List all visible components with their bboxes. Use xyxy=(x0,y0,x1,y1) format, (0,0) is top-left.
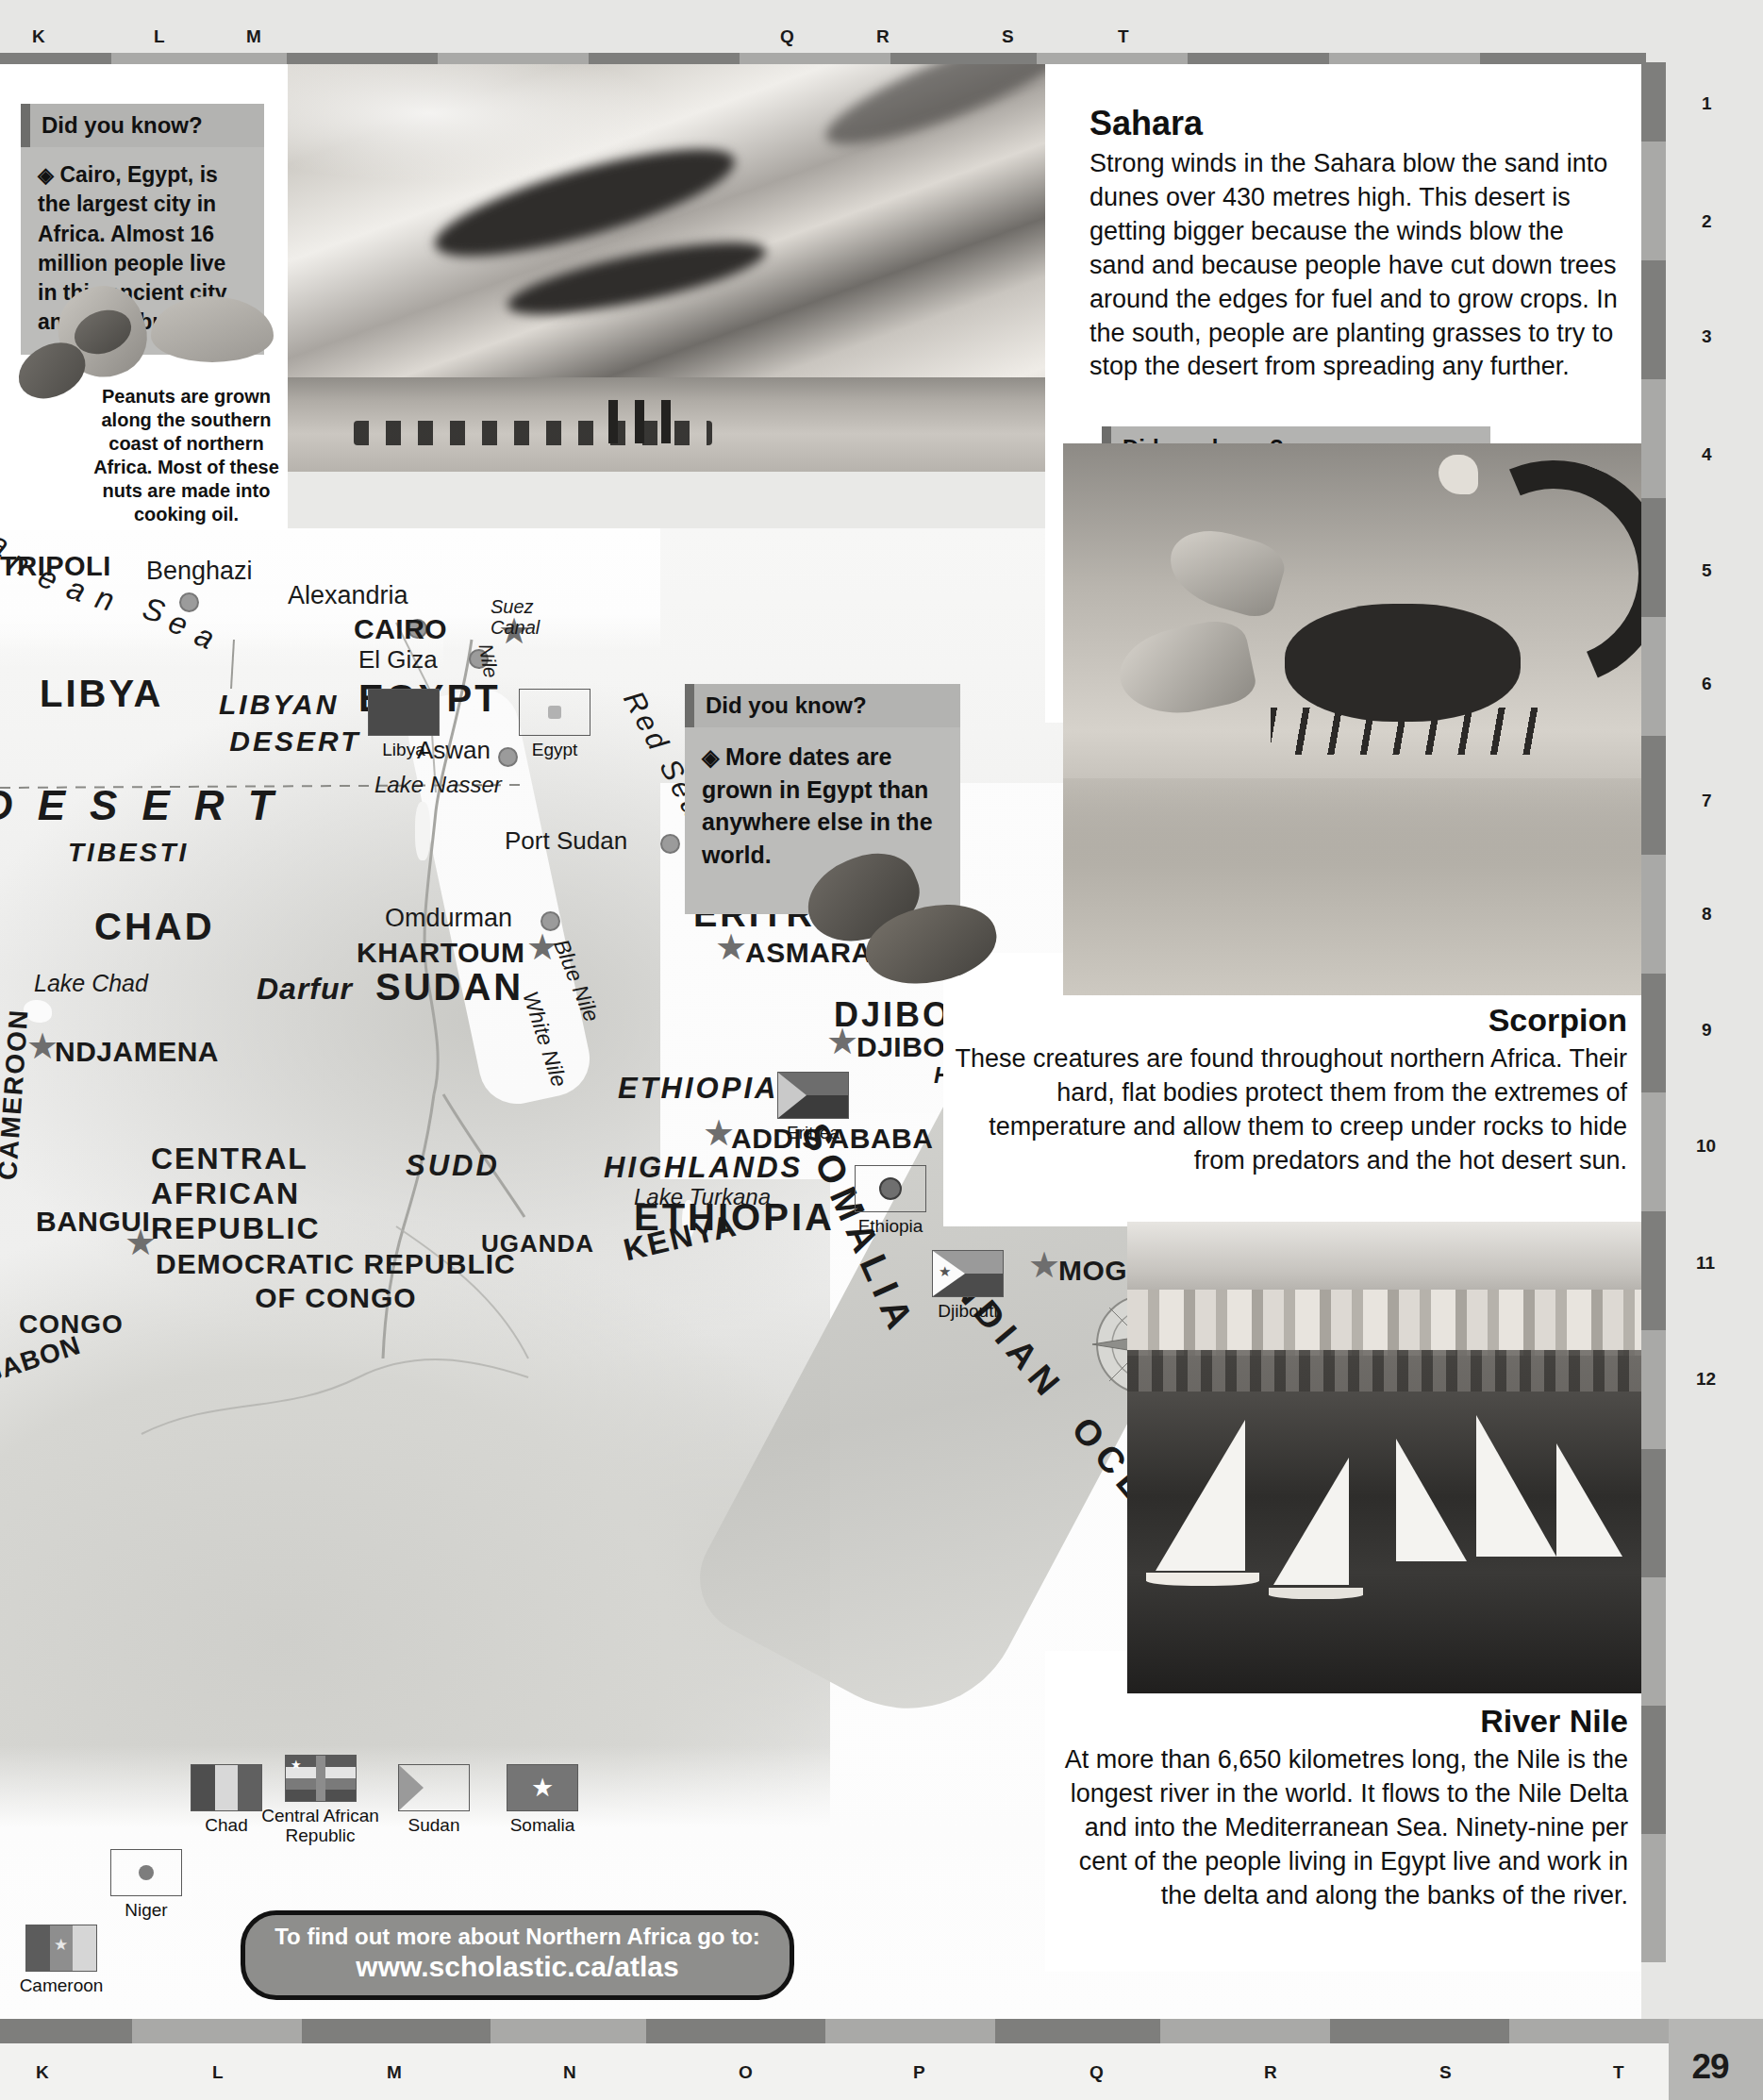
scholastic-url-banner[interactable]: To find out more about Northern Africa g… xyxy=(241,1910,794,2000)
flag-label-somalia: Somalia xyxy=(491,1816,594,1836)
flag-icon-chad xyxy=(191,1764,262,1811)
flag-label-sudan: Sudan xyxy=(382,1816,486,1836)
ruler-block xyxy=(111,53,287,64)
lake-nasser-shape xyxy=(415,802,430,860)
page-number: 29 xyxy=(1665,2047,1755,2087)
ruler-block xyxy=(1188,53,1329,64)
ruler-block xyxy=(740,53,890,64)
ruler-block xyxy=(1329,53,1480,64)
flag-central-african-republic: ★ Central African Republic xyxy=(257,1755,384,1845)
grid-ruler-right: 1 2 3 4 5 6 7 8 9 10 11 12 xyxy=(1641,62,1763,2019)
nile-palm-band xyxy=(1127,1350,1646,1392)
ruler-block xyxy=(1641,1706,1666,1834)
flag-icon-eritrea xyxy=(777,1072,849,1119)
flag-cameroon: ★ Cameroon xyxy=(9,1925,113,1996)
capital-star-asmara: ★ xyxy=(715,929,747,965)
flag-niger: Niger xyxy=(94,1849,198,1921)
grid-letter-top-m: M xyxy=(246,26,261,47)
url-banner-line2: www.scholastic.ca/atlas xyxy=(270,1950,765,1984)
river-nile-article-title: River Nile xyxy=(1045,1703,1628,1740)
peanut-whole-shell xyxy=(151,296,274,362)
ruler-block xyxy=(1509,2019,1679,2043)
label-sahara-desert: DESERT xyxy=(0,785,298,826)
label-chad: CHAD xyxy=(94,908,215,945)
label-omdurman: Omdurman xyxy=(385,906,512,931)
flag-label-egypt: Egypt xyxy=(507,741,602,760)
flag-somalia: ★ Somalia xyxy=(491,1764,594,1836)
grid-letter-top-k: K xyxy=(32,26,45,47)
ruler-block xyxy=(1641,62,1666,142)
label-drc: DEMOCRATIC REPUBLICOF CONGO xyxy=(156,1247,516,1315)
ruler-block xyxy=(995,2019,1160,2043)
label-suez-canal: SuezCanal xyxy=(491,596,540,638)
flag-libya: Libya xyxy=(357,689,451,760)
flag-label-central-african-republic: Central African Republic xyxy=(257,1807,384,1845)
grid-letter-top-q: Q xyxy=(780,26,794,47)
label-ndjamena: NDJAMENA xyxy=(55,1038,219,1066)
grid-number-1: 1 xyxy=(1702,93,1712,114)
flag-egypt: Egypt xyxy=(507,689,602,760)
flag-icon-sudan xyxy=(398,1764,470,1811)
label-lake-chad: Lake Chad xyxy=(34,972,148,995)
grid-ruler-bottom-blocks xyxy=(0,2019,1763,2043)
ruler-block xyxy=(1641,1449,1666,1577)
did-you-know-dates-text: More dates are grown in Egypt than anywh… xyxy=(702,743,933,868)
grid-letter-bottom-s: S xyxy=(1439,2062,1452,2083)
grid-letter-bottom-p: P xyxy=(913,2062,925,2083)
label-libyan-desert: LIBYAN DESERT xyxy=(219,686,360,759)
dune-people-group xyxy=(608,400,674,443)
grid-letter-bottom-k: K xyxy=(36,2062,49,2083)
did-you-know-cairo-heading-text: Did you know? xyxy=(42,112,203,138)
scorpion-article-body: These creatures are found throughout nor… xyxy=(953,1042,1627,1178)
did-you-know-dates-heading: Did you know? xyxy=(685,684,960,727)
bullet-diamond-icon: ◈ xyxy=(38,163,54,187)
grid-letter-top-l: L xyxy=(154,26,165,47)
label-benghazi: Benghazi xyxy=(146,558,253,584)
scorpion-claw-right xyxy=(1161,520,1290,622)
ruler-block xyxy=(0,53,111,64)
flag-djibouti: ★ Djibouti xyxy=(911,1250,1024,1322)
peanut-caption-text: Peanuts are grown along the southern coa… xyxy=(93,386,279,525)
scorpion-ground xyxy=(1063,778,1646,995)
capital-star-addis-ababa: ★ xyxy=(703,1115,735,1151)
scorpion-claw-left xyxy=(1112,614,1259,725)
scorpion-stinger xyxy=(1439,455,1478,494)
grid-letter-bottom-q: Q xyxy=(1089,2062,1104,2083)
ruler-block xyxy=(132,2019,302,2043)
ruler-block xyxy=(890,53,1037,64)
flag-icon-ethiopia xyxy=(855,1165,926,1212)
ruler-block xyxy=(1641,974,1666,1092)
city-dot-benghazi xyxy=(179,592,199,612)
did-you-know-cairo-heading: Did you know? xyxy=(21,104,264,147)
ruler-block xyxy=(1641,736,1666,855)
grid-number-5: 5 xyxy=(1702,560,1712,581)
grid-ruler-bottom: K L M N O P Q R S T 29 xyxy=(0,2019,1763,2100)
ruler-block xyxy=(1160,2019,1330,2043)
capital-star-mogadishu: ★ xyxy=(1028,1247,1060,1283)
capital-star-djibouti: ★ xyxy=(826,1024,858,1059)
ruler-block xyxy=(438,53,589,64)
ruler-block xyxy=(1330,2019,1509,2043)
scorpion-photo xyxy=(1063,443,1646,995)
flag-label-eritrea: Eritrea xyxy=(766,1124,860,1143)
sahara-article-body: Strong winds in the Sahara blow the sand… xyxy=(1089,147,1622,384)
river-nile-article-body: At more than 6,650 kilometres long, the … xyxy=(1045,1743,1628,1913)
grid-letter-top-r: R xyxy=(876,26,890,47)
felucca-hull-2 xyxy=(1269,1588,1363,1599)
label-sudd: SUDD xyxy=(406,1151,500,1180)
label-khartoum: KHARTOUM xyxy=(357,939,524,967)
label-alexandria: Alexandria xyxy=(288,583,408,608)
grid-number-2: 2 xyxy=(1702,211,1712,232)
ruler-block xyxy=(1641,142,1666,260)
grid-letter-top-s: S xyxy=(1002,26,1014,47)
label-sudan: SUDAN xyxy=(375,968,524,1006)
label-lake-turkana-2: Lake Turkana xyxy=(634,1186,771,1208)
label-central-african-republic: CENTRALAFRICANREPUBLIC xyxy=(151,1142,321,1245)
grid-letter-bottom-m: M xyxy=(387,2062,402,2083)
label-lake-nasser: Lake Nasser xyxy=(374,774,502,796)
label-libya: LIBYA xyxy=(40,675,163,712)
flag-label-cameroon: Cameroon xyxy=(9,1976,113,1996)
peanut-caption: Peanuts are grown along the southern coa… xyxy=(85,385,288,526)
flag-sudan: Sudan xyxy=(382,1764,486,1836)
grid-number-10: 10 xyxy=(1696,1136,1716,1157)
